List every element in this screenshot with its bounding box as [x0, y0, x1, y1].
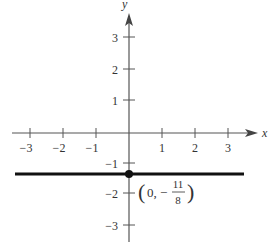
y-tick-label: 3 — [112, 31, 118, 45]
y-tick-label: −3 — [105, 219, 118, 233]
x-tick-label: 3 — [225, 141, 231, 155]
x-tick-label: −3 — [20, 141, 33, 155]
annotation-open-paren: ( — [138, 179, 145, 204]
x-tick-label: 2 — [192, 141, 198, 155]
x-axis: x — [12, 126, 268, 140]
y-tick-label: 2 — [112, 63, 118, 77]
x-axis-label: x — [261, 126, 268, 140]
x-tick-labels: −3 −2 −1 1 2 3 — [20, 141, 231, 155]
y-tick-label: −2 — [105, 187, 118, 201]
y-tick-label: −1 — [105, 157, 118, 171]
annotation-close-paren: ) — [187, 179, 194, 204]
x-tick-label: −2 — [53, 141, 66, 155]
x-tick-label: −1 — [86, 141, 99, 155]
annotation-prefix: 0, − — [147, 185, 167, 200]
chart-plot: x y −3 −2 −1 1 2 3 3 2 1 −1 −2 −3 — [0, 0, 270, 242]
annotation-denominator: 8 — [175, 194, 181, 206]
y-tick-labels: 3 2 1 −1 −2 −3 — [105, 31, 118, 233]
x-tick-label: 1 — [159, 141, 165, 155]
point-annotation: ( 0, − 11 8 ) — [138, 178, 194, 206]
y-intercept-point — [125, 170, 133, 178]
y-axis-label: y — [121, 0, 128, 11]
y-tick-label: 1 — [112, 94, 118, 108]
annotation-numerator: 11 — [173, 178, 184, 190]
y-axis: y — [121, 0, 133, 242]
